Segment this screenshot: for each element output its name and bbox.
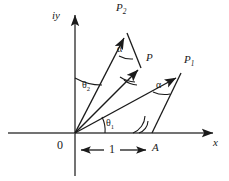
vector-label-p: P [146, 52, 153, 63]
angle-label-theta2-sub: 2 [87, 85, 90, 92]
arc-alpha-top-outer [119, 56, 133, 59]
point-label-a: A [152, 142, 159, 153]
connectors-group [127, 33, 181, 133]
x-axis-label: x [213, 137, 218, 148]
dimension-label-unit: 1 [109, 143, 115, 155]
angle-label-theta1: θ1 [106, 118, 114, 131]
vector-label-p2: P2 [116, 2, 126, 16]
angle-label-alpha-top: α [117, 44, 122, 54]
angle-label-alpha-right: α [156, 80, 161, 90]
vector-label-p1-base: P [184, 53, 191, 65]
connector-p-to-p2 [127, 33, 141, 68]
angle-label-theta1-sub: 1 [111, 123, 114, 130]
vector-label-p2-base: P [116, 1, 123, 13]
angle-arcs-group [75, 56, 170, 133]
arc-alpha-right [153, 92, 170, 95]
vector-label-p1: P1 [184, 54, 194, 68]
y-axis-label: iy [52, 10, 60, 21]
angle-label-theta2: θ2 [82, 80, 90, 93]
vector-label-p2-sub: 2 [123, 8, 127, 16]
vector-label-p1-sub: 1 [191, 60, 195, 68]
arc-theta1 [102, 117, 105, 133]
origin-label: 0 [57, 139, 63, 151]
